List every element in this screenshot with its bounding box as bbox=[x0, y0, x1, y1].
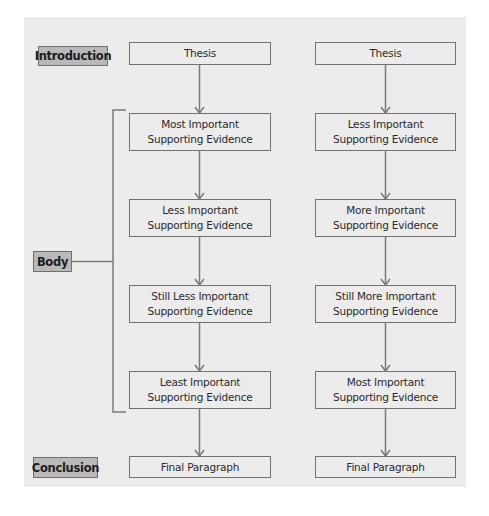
left-thesis-box: Thesis bbox=[129, 42, 271, 65]
node-text-line1: Less Important bbox=[162, 203, 238, 218]
node-text-line1: Most Important bbox=[161, 117, 239, 132]
right-evidence-box-4: Most Important Supporting Evidence bbox=[315, 371, 456, 409]
left-evidence-box-2: Less Important Supporting Evidence bbox=[129, 199, 271, 237]
right-evidence-box-1: Less Important Supporting Evidence bbox=[315, 113, 456, 151]
node-text-line2: Supporting Evidence bbox=[333, 218, 438, 233]
node-text-line2: Supporting Evidence bbox=[147, 390, 252, 405]
node-text-line1: Still Less Important bbox=[151, 289, 248, 304]
node-text: Final Paragraph bbox=[346, 460, 424, 475]
node-text: Thesis bbox=[184, 46, 216, 61]
node-text-line1: More Important bbox=[346, 203, 425, 218]
left-evidence-box-3: Still Less Important Supporting Evidence bbox=[129, 285, 271, 323]
node-text-line2: Supporting Evidence bbox=[147, 218, 252, 233]
body-bracket bbox=[113, 110, 126, 412]
node-text-line2: Supporting Evidence bbox=[333, 390, 438, 405]
connectors-layer bbox=[0, 0, 489, 516]
node-text-line2: Supporting Evidence bbox=[147, 132, 252, 147]
node-text-line2: Supporting Evidence bbox=[333, 132, 438, 147]
node-text-line1: Least Important bbox=[160, 375, 241, 390]
node-text-line1: Still More Important bbox=[335, 289, 435, 304]
left-evidence-box-4: Least Important Supporting Evidence bbox=[129, 371, 271, 409]
right-evidence-box-2: More Important Supporting Evidence bbox=[315, 199, 456, 237]
node-text-line1: Less Important bbox=[348, 117, 424, 132]
node-text-line2: Supporting Evidence bbox=[333, 304, 438, 319]
left-evidence-box-1: Most Important Supporting Evidence bbox=[129, 113, 271, 151]
node-text-line2: Supporting Evidence bbox=[147, 304, 252, 319]
node-text: Thesis bbox=[369, 46, 401, 61]
right-evidence-box-3: Still More Important Supporting Evidence bbox=[315, 285, 456, 323]
node-text-line1: Most Important bbox=[347, 375, 425, 390]
left-final-paragraph-box: Final Paragraph bbox=[129, 456, 271, 478]
node-text: Final Paragraph bbox=[161, 460, 239, 475]
right-thesis-box: Thesis bbox=[315, 42, 456, 65]
right-final-paragraph-box: Final Paragraph bbox=[315, 456, 456, 478]
